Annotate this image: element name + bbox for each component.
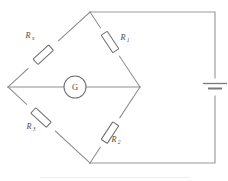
resistor-label-rx-sub: x [31, 35, 35, 41]
resistor-label-r3: R 3 [25, 122, 35, 132]
wheatstone-bridge-figure: G R x R 1 R 3 R 2 [0, 0, 228, 181]
wire-arm-r1-upper [90, 12, 101, 28]
wire-arm-r3-upper [8, 87, 27, 104]
resistor-r1-body [101, 31, 119, 52]
resistor-label-r2-sub: 2 [118, 139, 121, 145]
wire-arm-rx-lower [8, 69, 28, 87]
wire-arm-rx-upper [59, 12, 91, 41]
wire-arm-r2-lower [90, 148, 100, 164]
resistor-r3 [31, 108, 51, 128]
resistor-rx [33, 45, 53, 64]
resistor-label-r1-sub: 1 [127, 37, 130, 43]
circuit-diagram-canvas: G R x R 1 R 3 R 2 [0, 0, 228, 181]
resistor-r3-body [31, 108, 51, 128]
resistor-label-r3-main: R [25, 122, 31, 131]
resistor-rx-body [33, 45, 53, 64]
resistor-label-r2: R 2 [110, 135, 120, 145]
resistor-label-r1: R 1 [119, 33, 129, 43]
resistor-label-r1-main: R [119, 33, 125, 42]
resistor-label-rx-main: R [24, 31, 30, 40]
wire-arm-r3-lower [56, 131, 91, 163]
resistor-r1 [101, 31, 119, 52]
resistor-label-r2-main: R [110, 135, 116, 144]
resistor-label-rx: R x [24, 31, 34, 41]
galvanometer-label: G [72, 82, 78, 92]
galvanometer: G [64, 76, 86, 98]
resistor-label-r3-sub: 3 [32, 126, 36, 132]
wire-arm-r1-lower [120, 56, 141, 87]
battery-symbol [203, 84, 227, 89]
wire-arm-r2-upper [120, 87, 140, 118]
